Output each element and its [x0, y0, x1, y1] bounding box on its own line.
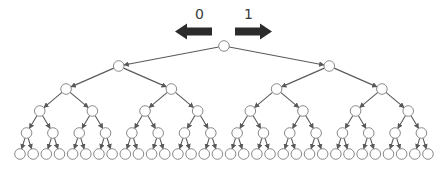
tree-leaf-node	[120, 149, 131, 160]
tree-leaf-node	[173, 149, 184, 160]
tree-node	[192, 106, 203, 117]
tree-edge	[358, 116, 366, 129]
tree-leaf-node	[15, 149, 26, 160]
tree-edge	[291, 138, 294, 149]
tree-edge	[240, 116, 248, 129]
tree-edge	[390, 138, 393, 149]
tree-edge	[70, 92, 88, 107]
tree-edge	[370, 138, 373, 149]
tree-leaf-node	[133, 149, 144, 160]
binary-tree-diagram	[0, 0, 445, 170]
tree-root-node	[219, 41, 230, 52]
tree-leaf-node	[396, 149, 407, 160]
tree-edge	[206, 138, 209, 149]
tree-edge	[337, 138, 340, 149]
tree-leaf-node	[212, 149, 223, 160]
tree-edge	[397, 138, 400, 149]
tree-leaf-node	[146, 149, 157, 160]
tree-edge	[306, 116, 314, 129]
tree-edge	[42, 116, 50, 129]
tree-edge	[160, 138, 163, 149]
tree-edge	[398, 116, 406, 129]
tree-edge	[71, 68, 114, 87]
tree-edge	[265, 138, 268, 149]
tree-node	[179, 128, 190, 139]
tree-edge	[124, 68, 167, 87]
tree-edge	[101, 138, 104, 149]
tree-node	[258, 128, 269, 139]
tree-edge	[127, 138, 130, 149]
tree-leaf-node	[291, 149, 302, 160]
tree-edge	[345, 116, 353, 129]
tree-node	[245, 106, 256, 117]
tree-edge	[360, 92, 378, 107]
tree-edge	[253, 116, 261, 129]
tree-leaf-node	[410, 149, 421, 160]
tree-node	[416, 128, 427, 139]
right-arrow-icon	[235, 24, 272, 40]
tree-node	[350, 106, 361, 117]
tree-edge	[281, 92, 299, 107]
tree-leaf-node	[317, 149, 328, 160]
tree-leaf-node	[159, 149, 170, 160]
tree-edge	[416, 138, 419, 149]
tree-edge	[344, 138, 347, 149]
tree-edge	[187, 116, 195, 129]
tree-node	[48, 128, 59, 139]
tree-leaf-node	[186, 149, 197, 160]
tree-edge	[186, 138, 189, 149]
tree-edge	[82, 116, 90, 129]
tree-node	[206, 128, 217, 139]
tree-node	[113, 61, 124, 72]
tree-edge	[200, 116, 208, 129]
tree-node	[74, 128, 85, 139]
tree-leaf-node	[67, 149, 78, 160]
tree-edge	[153, 138, 156, 149]
tree-node	[61, 84, 72, 95]
tree-edge	[254, 92, 272, 107]
tree-nodes	[15, 41, 434, 160]
tree-edge	[239, 138, 242, 149]
tree-edge	[285, 138, 288, 149]
tree-leaf-node	[370, 149, 381, 160]
tree-edge	[212, 138, 215, 149]
tree-edge	[81, 138, 84, 149]
tree-node	[87, 106, 98, 117]
tree-node	[21, 128, 32, 139]
tree-edge	[54, 138, 57, 149]
tree-edge	[334, 68, 377, 87]
tree-edge	[48, 138, 51, 149]
tree-edge	[44, 92, 62, 107]
tree-leaf-node	[304, 149, 315, 160]
tree-node	[377, 84, 388, 95]
tree-leaf-node	[265, 149, 276, 160]
tree-edge	[311, 138, 314, 149]
tree-leaf-node	[107, 149, 118, 160]
tree-node	[232, 128, 243, 139]
left-branch-label: 0	[195, 7, 204, 21]
tree-leaf-node	[94, 149, 105, 160]
tree-leaf-node	[423, 149, 434, 160]
right-branch-label: 1	[244, 7, 253, 21]
tree-node	[271, 84, 282, 95]
tree-edge	[22, 138, 25, 149]
tree-edge	[133, 138, 136, 149]
tree-edge	[293, 116, 301, 129]
tree-leaf-node	[344, 149, 355, 160]
tree-edge	[95, 116, 103, 129]
tree-node	[127, 128, 138, 139]
tree-edge	[124, 47, 219, 65]
tree-edge	[74, 138, 77, 149]
tree-edge	[107, 138, 110, 149]
tree-node	[140, 106, 151, 117]
tree-leaf-node	[199, 149, 210, 160]
tree-leaf-node	[252, 149, 263, 160]
tree-leaf-node	[357, 149, 368, 160]
tree-edge	[135, 116, 143, 129]
tree-edge	[423, 138, 426, 149]
tree-node	[363, 128, 374, 139]
tree-edge	[29, 116, 37, 129]
tree-node	[324, 61, 335, 72]
tree-node	[153, 128, 164, 139]
tree-leaf-node	[28, 149, 39, 160]
